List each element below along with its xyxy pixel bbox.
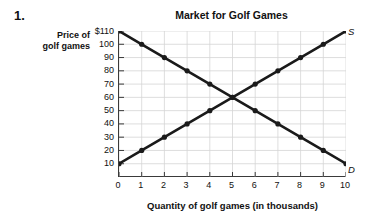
x-tick-label: 2 (161, 181, 166, 190)
y-tick-label: 90 (104, 53, 114, 62)
x-tick-label: 8 (297, 181, 302, 190)
data-point-S (139, 148, 144, 153)
y-tick-label: 50 (104, 106, 114, 115)
x-tick-label: 5 (229, 181, 234, 190)
data-point-S (162, 135, 167, 140)
x-axis-tick-labels: 012345678910 (118, 181, 345, 195)
data-point-D (321, 148, 326, 153)
data-point-S (321, 42, 326, 47)
y-tick-label: 60 (104, 93, 114, 102)
plot-area (118, 31, 345, 177)
demand-curve-label: D (348, 164, 355, 175)
data-point-D (298, 135, 303, 140)
data-point-S (185, 121, 190, 126)
data-point-S (207, 108, 212, 113)
worksheet-page: 1. Market for Golf Games Price of golf g… (0, 0, 375, 224)
x-tick-label: 6 (252, 181, 257, 190)
y-tick-label: 70 (104, 80, 114, 89)
data-point-S (275, 68, 280, 73)
y-tick-label: 100 (99, 40, 114, 49)
y-tick-label: 10 (104, 159, 114, 168)
chart-canvas (119, 31, 346, 177)
y-tick-label: $110 (95, 27, 114, 36)
data-point-D (207, 81, 212, 86)
data-point-S (253, 81, 258, 86)
x-tick-label: 9 (320, 181, 325, 190)
chart-title: Market for Golf Games (118, 9, 345, 21)
x-axis-title: Quantity of golf games (in thousands) (105, 200, 360, 211)
data-point-D (253, 108, 258, 113)
y-tick-label: 40 (104, 119, 114, 128)
x-tick-label: 4 (206, 181, 211, 190)
data-point-S (298, 55, 303, 60)
y-tick-label: 80 (104, 66, 114, 75)
x-tick-label: 3 (184, 181, 189, 190)
data-point-D (185, 68, 190, 73)
y-tick-label: 20 (104, 146, 114, 155)
supply-curve-label: S (348, 26, 354, 37)
question-number: 1. (14, 8, 25, 23)
data-point-S (230, 95, 235, 100)
x-tick-label: 7 (274, 181, 279, 190)
x-tick-label: 1 (138, 181, 143, 190)
data-point-D (139, 42, 144, 47)
y-tick-label: 30 (104, 133, 114, 142)
y-axis-tick-labels: 102030405060708090100$110 (74, 31, 114, 177)
x-tick-label: 0 (115, 181, 120, 190)
data-point-D (275, 121, 280, 126)
x-tick-label: 10 (340, 181, 350, 190)
data-point-D (162, 55, 167, 60)
